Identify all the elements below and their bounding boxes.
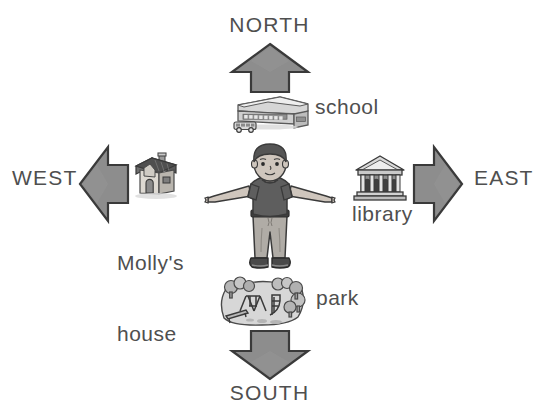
arrow-down-icon — [229, 329, 311, 381]
direction-label-north: NORTH — [0, 14, 539, 36]
arrow-up-icon — [229, 42, 311, 94]
direction-label-south: SOUTH — [0, 382, 539, 404]
library-building-icon — [354, 154, 406, 202]
school-building-icon — [228, 94, 312, 134]
place-label-park: park — [316, 287, 359, 309]
place-label-house-line1: Molly's — [117, 251, 184, 275]
direction-label-east: EAST — [474, 167, 534, 189]
park-icon — [216, 275, 310, 329]
direction-label-west: WEST — [12, 167, 77, 189]
place-label-house-line2: house — [117, 322, 184, 346]
arrow-right-icon — [412, 144, 464, 224]
boy-figure — [205, 142, 335, 276]
house-icon — [128, 151, 184, 203]
place-label-school: school — [315, 96, 379, 118]
place-label-library: library — [352, 203, 413, 225]
place-label-house: Molly's house — [117, 204, 184, 392]
compass-map-diagram: NORTH — [0, 0, 539, 418]
